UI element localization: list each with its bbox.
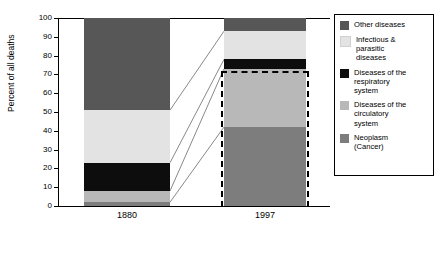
y-tick-label-20: 20 — [26, 164, 52, 172]
bar-segment[interactable] — [84, 110, 170, 163]
bar-segment[interactable] — [84, 202, 170, 206]
legend-label: Neoplasm (Cancer) — [354, 133, 388, 151]
legend-swatch-icon — [340, 69, 349, 78]
x-axis-line — [58, 206, 330, 207]
bar-segment[interactable] — [84, 191, 170, 202]
chart-root: Percent of all deaths 010203040506070809… — [0, 0, 439, 265]
y-tick-label-30: 30 — [26, 146, 52, 154]
bar-segment[interactable] — [224, 127, 306, 206]
connector-line — [170, 59, 224, 162]
legend-label: Infectious & parasitic diseases — [356, 35, 396, 63]
legend-label: Other diseases — [354, 20, 405, 29]
y-tick-label-0: 0 — [26, 202, 52, 210]
y-tick-label-40: 40 — [26, 127, 52, 135]
y-tick-0 — [54, 206, 58, 207]
y-tick-label-90: 90 — [26, 33, 52, 41]
y-tick-label-60: 60 — [26, 89, 52, 97]
legend: Other diseasesInfectious & parasitic dis… — [334, 14, 434, 176]
legend-item[interactable]: Infectious & parasitic diseases — [340, 35, 429, 63]
x-tick-label-1997: 1997 — [255, 210, 275, 220]
bar-segment[interactable] — [84, 163, 170, 191]
y-tick-label-100: 100 — [26, 14, 52, 22]
y-tick-label-80: 80 — [26, 52, 52, 60]
bar-segment[interactable] — [224, 18, 306, 31]
bar-segment[interactable] — [224, 69, 306, 127]
y-tick-label-50: 50 — [26, 108, 52, 116]
y-axis-title: Percent of all deaths — [6, 35, 16, 113]
legend-swatch-icon — [340, 36, 351, 47]
bar-1880[interactable] — [84, 18, 170, 206]
legend-swatch-icon — [340, 21, 349, 30]
legend-item[interactable]: Other diseases — [340, 20, 429, 30]
x-tick-label-1880: 1880 — [117, 210, 137, 220]
legend-label: Diseases of the circulatory system — [354, 100, 406, 128]
connector-line — [170, 127, 224, 202]
plot-area: 0102030405060708090100 1880 1997 — [58, 18, 330, 206]
legend-item[interactable]: Diseases of the circulatory system — [340, 100, 429, 128]
legend-swatch-icon — [340, 101, 349, 110]
legend-swatch-icon — [340, 134, 349, 143]
connector-line — [170, 69, 224, 191]
y-tick-label-10: 10 — [26, 183, 52, 191]
connector-line — [170, 31, 224, 110]
legend-item[interactable]: Diseases of the respiratory system — [340, 68, 429, 96]
legend-item[interactable]: Neoplasm (Cancer) — [340, 133, 429, 151]
bar-1997[interactable] — [224, 18, 306, 206]
bar-segment[interactable] — [224, 31, 306, 59]
bar-segment[interactable] — [84, 18, 170, 110]
bar-segment[interactable] — [224, 59, 306, 68]
y-tick-label-70: 70 — [26, 70, 52, 78]
legend-label: Diseases of the respiratory system — [354, 68, 406, 96]
